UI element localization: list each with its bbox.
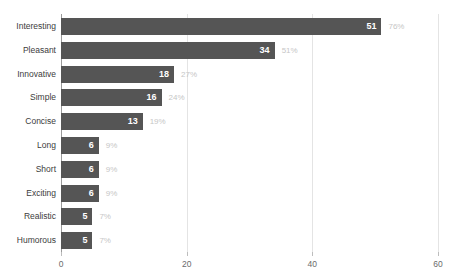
- bar-chart: 5176%3451%1827%1624%1319%69%69%69%57%57%…: [0, 0, 452, 278]
- bar-percent-label: 9%: [106, 161, 118, 178]
- bar-value-label: 5: [61, 208, 92, 225]
- bar-percent-label: 9%: [106, 137, 118, 154]
- bar-row: 3451%: [61, 42, 438, 59]
- bar-percent-label: 76%: [388, 18, 404, 35]
- bar-row: 69%: [61, 185, 438, 202]
- bar-value-label: 5: [61, 232, 92, 249]
- bar-percent-label: 51%: [282, 42, 298, 59]
- bar-row: 5176%: [61, 18, 438, 35]
- category-label-humorous: Humorous: [0, 232, 56, 249]
- category-label-interesting: Interesting: [0, 18, 56, 35]
- x-tick-mark-40: [312, 252, 313, 256]
- bar-row: 1827%: [61, 66, 438, 83]
- category-label-pleasant: Pleasant: [0, 42, 56, 59]
- gridline-60: [438, 14, 439, 252]
- bar-row: 69%: [61, 161, 438, 178]
- bar-percent-label: 19%: [150, 113, 166, 130]
- plot-area: 5176%3451%1827%1624%1319%69%69%69%57%57%: [61, 14, 438, 252]
- bar-row: 1319%: [61, 113, 438, 130]
- bar-row: 69%: [61, 137, 438, 154]
- category-label-long: Long: [0, 137, 56, 154]
- category-label-simple: Simple: [0, 89, 56, 106]
- bar-value-label: 18: [61, 66, 174, 83]
- bar-value-label: 16: [61, 89, 162, 106]
- category-label-innovative: Innovative: [0, 66, 56, 83]
- x-tick-mark-20: [187, 252, 188, 256]
- x-tick-mark-0: [61, 252, 62, 256]
- bar-percent-label: 24%: [169, 89, 185, 106]
- bar-percent-label: 7%: [99, 208, 111, 225]
- bar-percent-label: 27%: [181, 66, 197, 83]
- bar-row: 57%: [61, 208, 438, 225]
- x-tick-label-20: 20: [167, 259, 207, 269]
- category-label-exciting: Exciting: [0, 185, 56, 202]
- x-axis: 0204060: [61, 252, 438, 278]
- bar-percent-label: 9%: [106, 185, 118, 202]
- bar-percent-label: 7%: [99, 232, 111, 249]
- x-tick-label-40: 40: [292, 259, 332, 269]
- bar-value-label: 6: [61, 137, 99, 154]
- bar-row: 57%: [61, 232, 438, 249]
- bar-value-label: 13: [61, 113, 143, 130]
- bar-value-label: 6: [61, 185, 99, 202]
- x-tick-mark-60: [438, 252, 439, 256]
- category-label-realistic: Realistic: [0, 208, 56, 225]
- bar-value-label: 51: [61, 18, 381, 35]
- bar-value-label: 34: [61, 42, 275, 59]
- bar-row: 1624%: [61, 89, 438, 106]
- x-tick-label-60: 60: [418, 259, 452, 269]
- category-label-short: Short: [0, 161, 56, 178]
- x-tick-label-0: 0: [41, 259, 81, 269]
- category-label-concise: Concise: [0, 113, 56, 130]
- bar-value-label: 6: [61, 161, 99, 178]
